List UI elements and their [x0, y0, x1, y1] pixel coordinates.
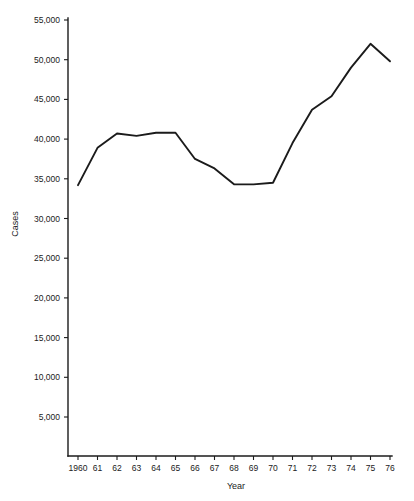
x-tick-label: 62	[112, 463, 122, 473]
y-tick-label: 55,000	[34, 15, 60, 25]
y-tick-label: 20,000	[34, 293, 60, 303]
x-tick-label: 74	[346, 463, 356, 473]
line-chart: 5,00010,00015,00020,00025,00030,00035,00…	[0, 0, 414, 501]
y-tick-label: 25,000	[34, 253, 60, 263]
y-tick-label: 5,000	[39, 412, 61, 422]
x-tick-label: 73	[327, 463, 337, 473]
plot-area: 5,00010,00015,00020,00025,00030,00035,00…	[10, 15, 395, 491]
data-series-line	[78, 44, 390, 185]
x-tick-label: 68	[229, 463, 239, 473]
x-tick-label: 61	[93, 463, 103, 473]
x-axis-ticks: 196061626364656667686970717273747576	[69, 456, 395, 473]
x-axis-title: Year	[227, 481, 245, 491]
x-tick-label: 72	[307, 463, 317, 473]
y-tick-label: 45,000	[34, 94, 60, 104]
x-tick-label: 1960	[69, 463, 88, 473]
chart-container: 5,00010,00015,00020,00025,00030,00035,00…	[0, 0, 414, 501]
y-axis-title: Cases	[10, 211, 20, 237]
x-tick-label: 69	[249, 463, 259, 473]
x-tick-label: 76	[385, 463, 395, 473]
x-tick-label: 75	[366, 463, 376, 473]
x-tick-label: 64	[151, 463, 161, 473]
y-tick-label: 50,000	[34, 55, 60, 65]
x-tick-label: 67	[210, 463, 220, 473]
x-tick-label: 65	[171, 463, 181, 473]
y-tick-label: 35,000	[34, 174, 60, 184]
x-tick-label: 66	[190, 463, 200, 473]
x-tick-label: 63	[132, 463, 142, 473]
y-axis-ticks: 5,00010,00015,00020,00025,00030,00035,00…	[34, 15, 68, 422]
x-tick-label: 70	[268, 463, 278, 473]
y-tick-label: 10,000	[34, 372, 60, 382]
y-tick-label: 40,000	[34, 134, 60, 144]
y-tick-label: 15,000	[34, 333, 60, 343]
x-tick-label: 71	[288, 463, 298, 473]
y-tick-label: 30,000	[34, 214, 60, 224]
